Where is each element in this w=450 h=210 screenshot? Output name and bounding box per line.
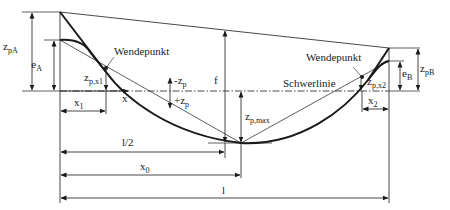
label-schwerlinie: Schwerlinie [283,77,336,89]
label-l: l [222,184,225,196]
label-wendepunkt-left: Wendepunkt [114,45,169,57]
wendepunkt-left-leader [106,57,114,68]
label-eB: eB [402,67,412,82]
label-x0: x0 [140,160,150,175]
label-zpmax: zp,max [245,110,270,125]
label-x1: x1 [74,96,84,111]
label-plus-zp: +zp [174,94,189,109]
label-minus-zp: -zp [174,74,187,89]
tendon-straight-left [60,12,106,72]
label-f: f [214,74,218,86]
label-x2: x2 [368,94,378,109]
label-l-half: l/2 [122,136,134,148]
label-eA: eA [31,58,42,73]
label-zpB: zpB [420,62,434,77]
label-wendepunkt-right: Wendepunkt [306,51,361,63]
tendon-profile-diagram: zpA eA Wendepunkt zp,x1 x1 x -zp +zp f S… [0,0,450,210]
wendepunkt-right-leader [353,67,362,77]
horizontal-dimensions [61,91,388,198]
label-zpA: zpA [3,40,18,55]
support-lines [60,12,389,203]
label-zpx1: zp,x1 [84,71,103,86]
label-x-axis: x [122,92,128,104]
chord-line [60,12,389,48]
label-zpx2: zp,x2 [367,75,386,90]
